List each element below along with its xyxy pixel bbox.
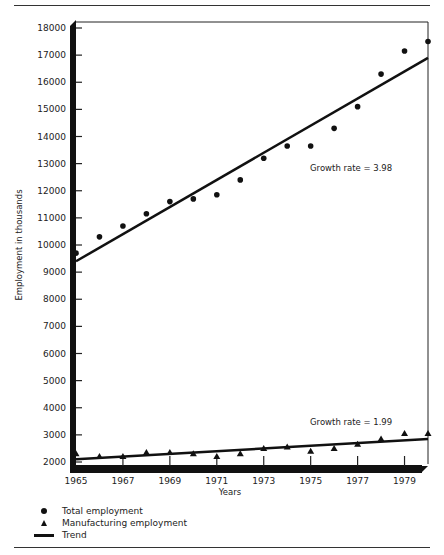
svg-text:7000: 7000 [43,321,66,331]
svg-text:8000: 8000 [43,294,66,304]
x-axis-label: Years [218,487,242,497]
svg-text:9000: 9000 [43,267,66,277]
legend-label-manufacturing: Manufacturing employment [62,518,187,528]
svg-text:1975: 1975 [299,476,322,486]
svg-text:5000: 5000 [43,376,66,386]
legend-item-total: Total employment [34,505,187,517]
svg-text:1971: 1971 [205,476,228,486]
y-axis-label: Employment in thousands [14,189,24,301]
svg-text:1977: 1977 [346,476,369,486]
triangle-marker-icon [41,520,47,526]
svg-text:15000: 15000 [37,104,66,114]
data-points [73,39,432,459]
bottom-rule [14,547,430,548]
svg-text:6000: 6000 [43,349,66,359]
trend-line-icon [34,534,54,537]
svg-text:3000: 3000 [43,430,66,440]
svg-text:4000: 4000 [43,403,66,413]
circle-marker-icon [41,508,47,514]
svg-text:10000: 10000 [37,240,66,250]
growth-rate-manufacturing-annotation: Growth rate = 1.99 [310,417,392,427]
employment-chart: 1800017000160001500014000130001200011000… [0,0,444,500]
legend-label-trend: Trend [62,530,87,540]
svg-text:2000: 2000 [43,457,66,467]
svg-text:1969: 1969 [158,476,181,486]
svg-text:12000: 12000 [37,186,66,196]
growth-rate-total-annotation: Growth rate = 3.98 [310,163,392,173]
svg-text:13000: 13000 [37,159,66,169]
svg-text:11000: 11000 [37,213,66,223]
svg-text:1973: 1973 [252,476,275,486]
legend: Total employment Manufacturing employmen… [34,505,187,541]
trend-lines [76,58,428,459]
svg-text:1965: 1965 [65,476,88,486]
svg-text:17000: 17000 [37,50,66,60]
svg-text:16000: 16000 [37,77,66,87]
legend-item-manufacturing: Manufacturing employment [34,517,187,529]
svg-text:1979: 1979 [393,476,416,486]
svg-text:1967: 1967 [111,476,134,486]
svg-text:14000: 14000 [37,132,66,142]
legend-label-total: Total employment [62,506,143,516]
legend-item-trend: Trend [34,529,187,541]
svg-text:18000: 18000 [37,23,66,33]
